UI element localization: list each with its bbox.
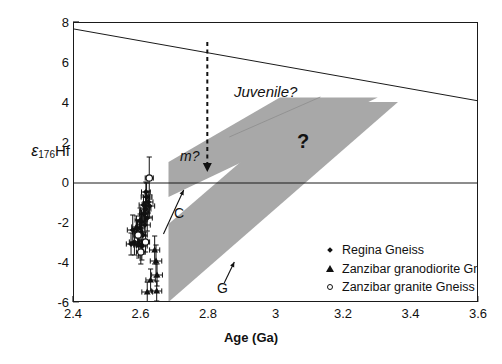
y-tick-label: -2 (57, 215, 69, 230)
y-tick-label: 0 (62, 175, 69, 190)
data-point (150, 236, 160, 264)
x-tick-label: 3.6 (469, 306, 487, 321)
plot-area: Juvenile? m? ? C G Regina Gneiss Zanziba… (73, 22, 478, 302)
question-mark-label: ? (297, 130, 309, 153)
x-tick-label: 2.8 (199, 306, 217, 321)
juvenile-line-label: Juvenile? (234, 83, 297, 100)
data-points-layer (126, 157, 162, 302)
figure-epsilon-hf-vs-age: ε176Hf Age (Ga) 86420-2-4-6 2.42.62.833.… (0, 0, 502, 364)
legend-item-zanzibar-granite-gneiss: Zanzibar granite Gneiss (323, 279, 478, 295)
legend-label: Regina Gneiss (342, 243, 424, 257)
diamond-marker-icon (323, 248, 337, 252)
legend-label: Zanzibar granodiorite Gneiss (342, 262, 478, 276)
y-axis-label: ε176Hf (4, 142, 70, 160)
x-axis-label: Age (Ga) (0, 330, 502, 345)
x-tick-label: 2.6 (131, 306, 149, 321)
mixing-arrow-label: m? (180, 148, 199, 164)
x-tick-label: 3.4 (401, 306, 419, 321)
g-array-label: G (217, 280, 228, 296)
circle-marker-icon (135, 232, 141, 238)
x-tick-label: 3 (272, 306, 279, 321)
y-tick-label: 2 (62, 135, 69, 150)
c-array-label: C (174, 205, 184, 221)
x-tick-label: 3.2 (334, 306, 352, 321)
x-tick-label: 2.4 (64, 306, 82, 321)
legend-item-regina-gneiss: Regina Gneiss (323, 242, 478, 258)
triangle-marker-icon (323, 265, 337, 272)
legend-label: Zanzibar granite Gneiss (342, 280, 475, 294)
y-tick-label: 6 (62, 55, 69, 70)
y-tick-label: -4 (57, 255, 69, 270)
y-tick-label: 4 (62, 95, 69, 110)
y-axis-label-subscript: 176 (38, 149, 55, 160)
circle-marker-icon (142, 239, 148, 245)
legend-item-zanzibar-granodiorite-gneiss: Zanzibar granodiorite Gneiss (323, 261, 478, 277)
circle-marker-icon (146, 175, 152, 181)
legend: Regina Gneiss Zanzibar granodiorite Gnei… (323, 242, 478, 298)
circle-marker-icon (323, 284, 337, 290)
y-tick-label: 8 (62, 15, 69, 30)
